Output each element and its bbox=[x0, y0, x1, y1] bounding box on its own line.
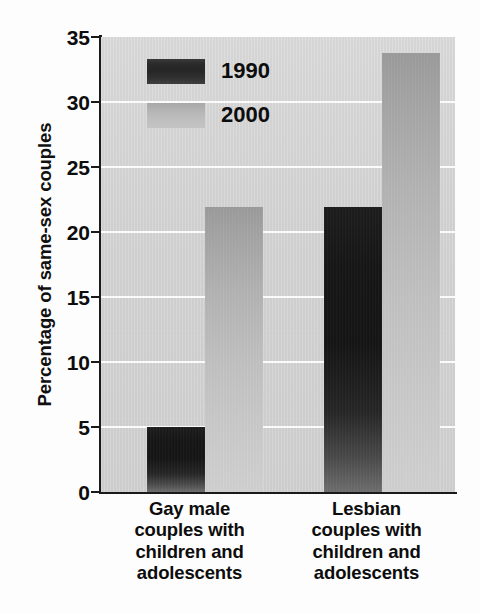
y-tick-label: 15 bbox=[44, 287, 90, 308]
y-tick-label: 10 bbox=[44, 352, 90, 373]
x-category-label-line: Lesbian bbox=[278, 498, 455, 519]
chart-figure: Percentage of same-sex couples 051015202… bbox=[0, 0, 480, 613]
legend-swatch-1990-icon bbox=[147, 59, 205, 84]
x-category-label-line: children and bbox=[101, 541, 278, 562]
y-tick-label: 25 bbox=[44, 157, 90, 178]
bar-2000-group-2 bbox=[382, 53, 440, 492]
legend-label-2000: 2000 bbox=[221, 104, 270, 126]
x-category-label-line: Gay male bbox=[101, 498, 278, 519]
y-tick-label: 20 bbox=[44, 222, 90, 243]
y-tick-label: 5 bbox=[44, 417, 90, 438]
legend-item-1990: 1990 bbox=[147, 56, 327, 86]
legend-item-2000: 2000 bbox=[147, 100, 327, 130]
x-category-label-1: Gay malecouples withchildren andadolesce… bbox=[101, 498, 278, 584]
legend: 1990 2000 bbox=[147, 56, 327, 144]
y-tick-label: 30 bbox=[44, 92, 90, 113]
bar-1990-group-1 bbox=[147, 427, 205, 492]
x-category-label-line: couples with bbox=[278, 519, 455, 540]
x-category-label-line: couples with bbox=[101, 519, 278, 540]
y-tick-label: 35 bbox=[44, 27, 90, 48]
x-axis-category-labels: Gay malecouples withchildren andadolesce… bbox=[101, 498, 455, 584]
y-axis-tick-labels: 05101520253035 bbox=[38, 0, 90, 613]
bar-1990-group-2 bbox=[324, 207, 382, 492]
y-tick-label: 0 bbox=[44, 482, 90, 503]
bar-2000-group-1 bbox=[205, 207, 263, 492]
legend-swatch-2000-icon bbox=[147, 103, 205, 128]
x-category-label-line: adolescents bbox=[278, 562, 455, 583]
x-category-label-line: children and bbox=[278, 541, 455, 562]
x-category-label-line: adolescents bbox=[101, 562, 278, 583]
x-category-label-2: Lesbiancouples withchildren andadolescen… bbox=[278, 498, 455, 584]
legend-label-1990: 1990 bbox=[221, 60, 270, 82]
